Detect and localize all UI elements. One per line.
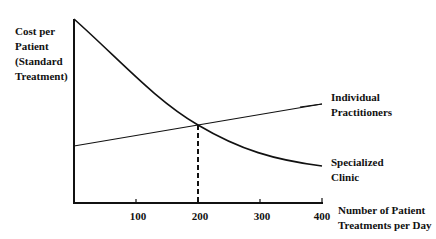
practitioners-leader <box>300 104 322 107</box>
legend-specialized-clinic: Specialized Clinic <box>331 155 384 185</box>
x-tick-label-400: 400 <box>314 210 331 222</box>
x-tick-label-300: 300 <box>254 210 271 222</box>
y-axis-label-line: Treatment) <box>15 69 68 84</box>
y-axis-label-line: Patient <box>15 39 68 54</box>
series-label-line: Individual <box>331 90 392 105</box>
x-axis-label-line: Number of Patient <box>338 203 431 218</box>
x-tick-label-200: 200 <box>192 210 209 222</box>
y-axis-label: Cost per Patient (Standard Treatment) <box>15 24 68 84</box>
y-axis-label-line: Cost per <box>15 24 68 39</box>
x-axis-label-line: Treatments per Day <box>338 218 431 233</box>
series-label-line: Specialized <box>331 155 384 170</box>
series-label-line: Practitioners <box>331 105 392 120</box>
legend-individual-practitioners: Individual Practitioners <box>331 90 392 120</box>
x-axis-label: Number of Patient Treatments per Day <box>338 203 431 233</box>
series-label-line: Clinic <box>331 170 384 185</box>
x-tick-label-100: 100 <box>130 210 147 222</box>
y-axis-label-line: (Standard <box>15 54 68 69</box>
